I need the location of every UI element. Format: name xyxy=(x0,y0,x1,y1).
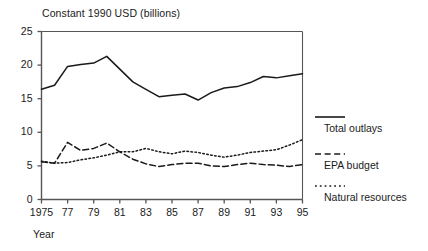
legend-label-epa-budget: EPA budget xyxy=(324,159,379,171)
legend-label-total-outlays: Total outlays xyxy=(324,122,382,134)
legend-label-natural-resources: Natural resources xyxy=(324,191,407,203)
chart-figure: Constant 1990 USD (billions) Year 252015… xyxy=(0,0,428,251)
